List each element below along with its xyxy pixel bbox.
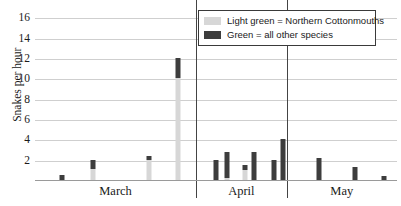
bar [214,160,219,180]
legend-label-green: Green = all other species [227,30,333,40]
x-axis-month-label: May [330,185,353,198]
bar [90,160,95,180]
bar-segment-light-green [242,170,247,180]
bar [252,152,257,180]
y-axis-tick-label: 6 [24,114,30,126]
bar [353,167,358,180]
legend-item: Light green = Northern Cottonmouths [204,15,369,27]
bar-segment-green [224,152,229,178]
y-axis-tick-label: 10 [19,73,31,85]
bar-segment-green [175,58,180,78]
bar-segment-green [353,167,358,180]
legend-item: Green = all other species [204,29,369,41]
bar [224,152,229,180]
x-axis-baseline [35,180,397,181]
bar-segment-light-green [147,160,152,180]
y-axis-tick-label: 8 [24,94,30,106]
bar-segment-green [252,152,257,180]
bar-segment-green [271,160,276,180]
legend-swatch-light-green [204,17,221,25]
month-separator [196,0,197,198]
bar-segment-green [317,158,322,180]
legend: Light green = Northern Cottonmouths Gree… [198,10,376,46]
bar-segment-green [214,160,219,180]
bar-segment-light-green [90,169,95,180]
bar [147,156,152,180]
bar-segment-green [90,160,95,169]
bar [317,158,322,180]
bar [242,165,247,180]
gridline [35,100,397,101]
x-axis-month-label: April [228,185,254,198]
y-axis-tick-label: 16 [19,12,31,24]
gridline [35,59,397,60]
bar-segment-light-green [175,78,180,180]
snakes-per-hour-chart: Snakes per hour 246810121416 MarchAprilM… [0,0,401,206]
y-axis-tick-label: 14 [19,33,31,45]
gridline [35,120,397,121]
y-axis-tick-label: 12 [19,53,31,65]
y-axis-tick-label: 4 [24,135,30,147]
bar [280,139,285,180]
x-axis-month-label: March [99,185,132,198]
bar [271,160,276,180]
y-axis-tick-label: 2 [24,155,30,167]
bar [175,58,180,180]
bar-segment-green [280,139,285,180]
gridline [35,140,397,141]
gridline [35,79,397,80]
legend-label-light-green: Light green = Northern Cottonmouths [227,16,384,26]
legend-swatch-green [204,31,221,39]
